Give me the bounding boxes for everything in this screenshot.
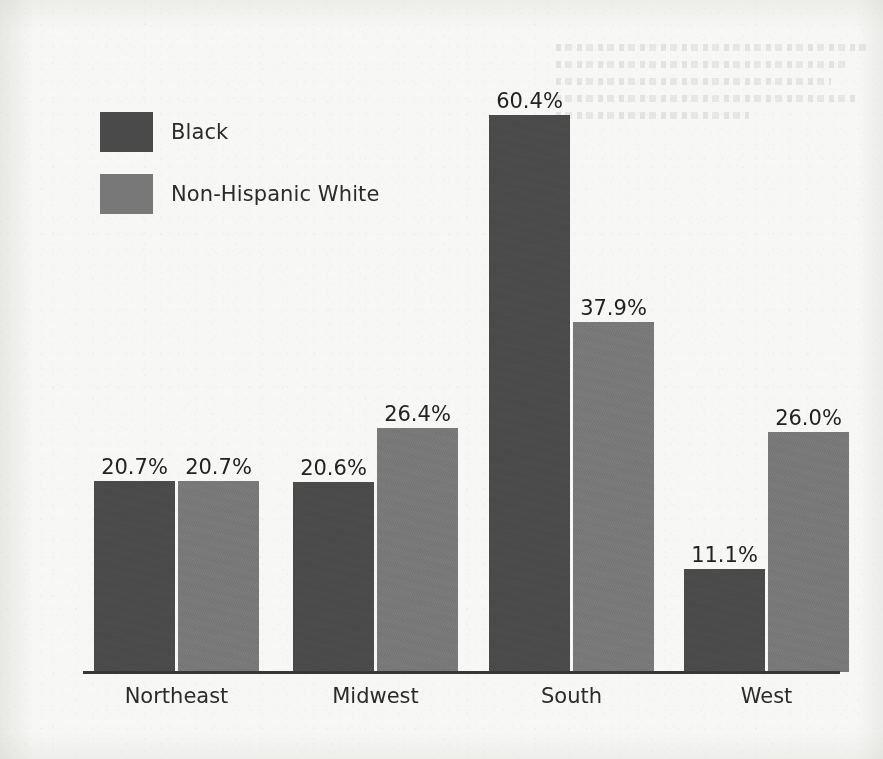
scanned-page: Black Non-Hispanic White 20.7% 20.7% 20.… [0,0,883,759]
bar-west-black [684,569,765,672]
bar-texture [684,569,765,672]
x-axis-category-label-midwest: Midwest [293,684,458,708]
x-axis-category-label-northeast: Northeast [94,684,259,708]
bar-value-label: 26.4% [377,402,458,426]
bar-texture [178,481,259,672]
bar-texture [489,115,570,672]
bar-midwest-nhwhite [377,428,458,672]
bar-value-label: 20.7% [178,455,259,479]
bar-value-label: 11.1% [684,543,765,567]
bar-texture [377,428,458,672]
bar-midwest-black [293,482,374,672]
bar-texture [573,322,654,672]
bar-south-black [489,115,570,672]
bar-texture [293,482,374,672]
bar-northeast-black [94,481,175,672]
bar-texture [94,481,175,672]
x-axis-category-label-west: West [684,684,849,708]
bar-west-nhwhite [768,432,849,672]
x-axis-line [83,671,840,674]
bar-value-label: 60.4% [489,89,570,113]
bar-value-label: 37.9% [573,296,654,320]
bar-texture [768,432,849,672]
bar-value-label: 20.7% [94,455,175,479]
x-axis-category-label-south: South [489,684,654,708]
bar-northeast-nhwhite [178,481,259,672]
bar-chart-plot-area: 20.7% 20.7% 20.6% 26.4% 60.4% 37.9% 11.1… [0,0,883,759]
bar-value-label: 20.6% [293,456,374,480]
bar-south-nhwhite [573,322,654,672]
bar-value-label: 26.0% [768,406,849,430]
